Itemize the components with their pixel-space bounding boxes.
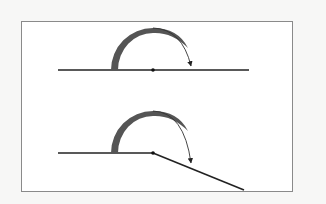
rotation-arc-crescent bbox=[111, 28, 188, 70]
vertex-dot bbox=[151, 68, 155, 72]
rotated-ray bbox=[153, 153, 244, 190]
rotation-arrow-icon bbox=[153, 28, 191, 66]
straight-angle-panel bbox=[58, 28, 249, 72]
reflex-angle-panel bbox=[58, 111, 244, 190]
vertex-dot bbox=[151, 151, 155, 155]
rotation-arc-crescent bbox=[111, 111, 188, 153]
angle-diagram bbox=[0, 0, 326, 204]
